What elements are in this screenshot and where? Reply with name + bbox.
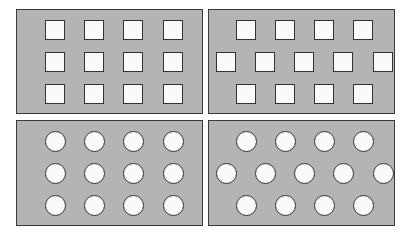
square-shape (45, 20, 65, 40)
square-shape (275, 20, 295, 40)
circle-shape (275, 195, 296, 216)
square-shape (294, 52, 314, 72)
circle-shape (236, 131, 257, 152)
square-shape (255, 52, 275, 72)
circle-shape (373, 163, 394, 184)
circle-shape (216, 163, 237, 184)
circle-shape (353, 195, 374, 216)
circle-shape (163, 131, 184, 152)
circle-shape (84, 131, 105, 152)
square-shape (45, 84, 65, 104)
circle-shape (255, 163, 276, 184)
circle-shape (123, 195, 144, 216)
circle-shape (294, 163, 315, 184)
circle-shape (314, 195, 335, 216)
circle-shape (236, 195, 257, 216)
circle-shape (84, 195, 105, 216)
square-shape (163, 52, 183, 72)
square-shape (353, 84, 373, 104)
square-shape (163, 84, 183, 104)
circle-shape (353, 131, 374, 152)
square-shape (353, 20, 373, 40)
circle-shape (45, 163, 66, 184)
square-shape (84, 20, 104, 40)
circle-shape (314, 131, 335, 152)
square-shape (45, 52, 65, 72)
circle-shape (123, 163, 144, 184)
square-shape (123, 52, 143, 72)
circle-shape (163, 163, 184, 184)
square-shape (216, 52, 236, 72)
square-shape (163, 20, 183, 40)
square-shape (123, 20, 143, 40)
square-shape (314, 20, 334, 40)
circle-shape (123, 131, 144, 152)
square-shape (236, 84, 256, 104)
circle-shape (45, 131, 66, 152)
square-shape (84, 52, 104, 72)
square-shape (373, 52, 393, 72)
circle-shape (45, 195, 66, 216)
square-shape (275, 84, 295, 104)
circle-shape (275, 131, 296, 152)
circle-shape (163, 195, 184, 216)
square-shape (84, 84, 104, 104)
square-shape (333, 52, 353, 72)
circle-shape (333, 163, 354, 184)
square-shape (236, 20, 256, 40)
circle-shape (84, 163, 105, 184)
square-shape (123, 84, 143, 104)
square-shape (314, 84, 334, 104)
